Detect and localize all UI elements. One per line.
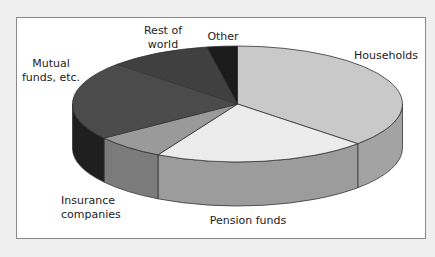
label-insurance-companies: Insurance companies	[61, 194, 141, 222]
label-households: Households	[350, 49, 422, 63]
figure-background: Rest of world Other Mutual funds, etc. H…	[0, 0, 435, 257]
label-other: Other	[201, 30, 245, 44]
label-pension-funds: Pension funds	[198, 214, 298, 228]
label-mutual-funds: Mutual funds, etc.	[20, 57, 82, 85]
label-rest-of-world: Rest of world	[128, 24, 198, 52]
pie-top-faces	[73, 46, 403, 162]
